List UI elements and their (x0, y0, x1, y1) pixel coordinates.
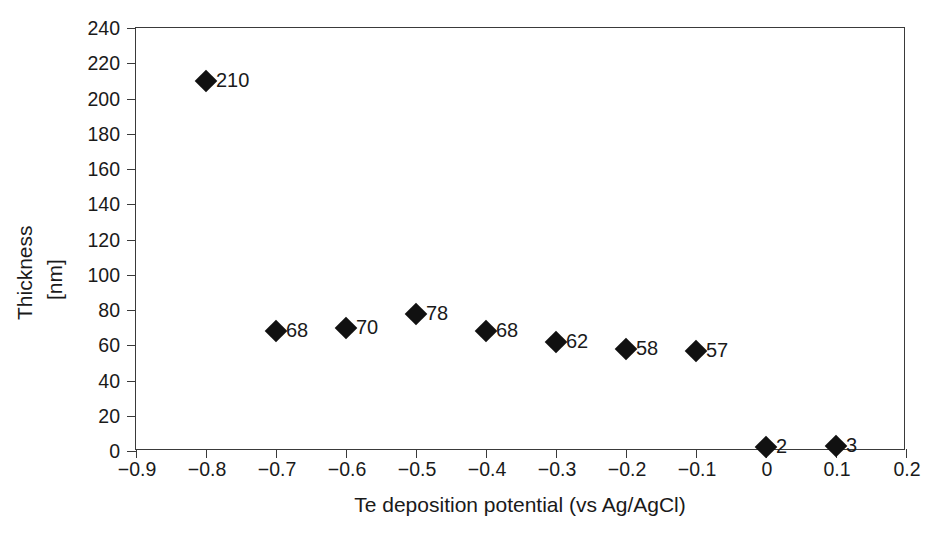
y-axis-tick-label: 240 (87, 19, 120, 39)
diamond-marker-icon (685, 339, 708, 362)
y-axis-tick: 220 (127, 63, 136, 64)
y-axis-tick-label: 200 (87, 90, 120, 110)
diamond-marker-icon (195, 70, 218, 93)
x-axis-tick: 0.2 (906, 449, 907, 458)
data-point-label: 70 (356, 317, 378, 337)
x-axis-title: Te deposition potential (vs Ag/AgCl) (135, 494, 905, 515)
x-axis-tick-label: −0.7 (258, 460, 297, 480)
y-axis-tick: 240 (127, 28, 136, 29)
y-axis-unit: [nm] (44, 259, 65, 300)
y-axis-tick: 60 (127, 345, 136, 346)
x-axis-tick: −0.6 (346, 449, 347, 458)
diamond-marker-icon (475, 320, 498, 343)
diamond-marker-icon (405, 302, 428, 325)
data-point-label: 68 (286, 320, 308, 340)
y-axis-tick-label: 20 (98, 407, 120, 427)
y-axis-tick: 40 (127, 381, 136, 382)
diamond-marker-icon (265, 320, 288, 343)
y-axis-tick-label: 60 (98, 337, 120, 357)
x-axis-tick-label: −0.9 (118, 460, 157, 480)
y-axis-tick: 100 (127, 275, 136, 276)
y-axis-tick-label: 180 (87, 125, 120, 145)
x-axis-tick-label: −0.8 (188, 460, 227, 480)
scatter-chart-figure: 020406080100120140160180200220240 −0.9−0… (0, 0, 934, 538)
y-axis-tick: 80 (127, 310, 136, 311)
y-axis-tick-label: 80 (98, 301, 120, 321)
x-axis-tick-label: −0.4 (468, 460, 507, 480)
y-axis-tick: 140 (127, 204, 136, 205)
x-axis-tick-label: −0.3 (538, 460, 577, 480)
diamond-marker-icon (755, 436, 778, 459)
x-axis-tick-label: −0.5 (398, 460, 437, 480)
diamond-marker-icon (545, 330, 568, 353)
diamond-marker-icon (825, 434, 848, 457)
x-axis-tick-label: 0 (762, 460, 773, 480)
x-axis-tick-label: −0.2 (608, 460, 647, 480)
x-axis-tick-label: −0.6 (328, 460, 367, 480)
diamond-marker-icon (615, 337, 638, 360)
data-point-label: 62 (566, 331, 588, 351)
y-axis-tick: 180 (127, 134, 136, 135)
plot-area: 020406080100120140160180200220240 −0.9−0… (135, 27, 905, 450)
x-axis-tick: −0.5 (416, 449, 417, 458)
y-axis-tick-label: 40 (98, 372, 120, 392)
x-axis-tick: −0.2 (626, 449, 627, 458)
data-point-label: 3 (846, 435, 857, 455)
data-point-label: 58 (636, 338, 658, 358)
data-point-label: 68 (496, 320, 518, 340)
data-point-label: 210 (216, 70, 249, 90)
y-axis-tick-label: 160 (87, 160, 120, 180)
data-point-label: 78 (426, 303, 448, 323)
y-axis-title: Thickness (14, 225, 35, 320)
x-axis-tick: −0.4 (486, 449, 487, 458)
x-axis-tick-label: −0.1 (678, 460, 717, 480)
y-axis-tick-label: 220 (87, 55, 120, 75)
diamond-marker-icon (335, 316, 358, 339)
y-axis-tick: 0 (127, 451, 136, 452)
y-axis-tick-label: 100 (87, 266, 120, 286)
x-axis-tick-label: 0.2 (893, 460, 920, 480)
x-axis-tick: −0.1 (696, 449, 697, 458)
x-axis-tick: −0.7 (276, 449, 277, 458)
data-point-label: 2 (776, 436, 787, 456)
y-axis-tick-label: 120 (87, 231, 120, 251)
x-axis-tick: −0.8 (206, 449, 207, 458)
y-axis-tick-label: 140 (87, 196, 120, 216)
x-axis-tick-label: 0.1 (823, 460, 850, 480)
data-point-label: 57 (706, 340, 728, 360)
y-axis-tick: 20 (127, 416, 136, 417)
x-axis-tick: −0.3 (556, 449, 557, 458)
x-axis-tick: −0.9 (136, 449, 137, 458)
y-axis-tick: 160 (127, 169, 136, 170)
y-axis-tick: 120 (127, 240, 136, 241)
y-axis-tick: 200 (127, 99, 136, 100)
